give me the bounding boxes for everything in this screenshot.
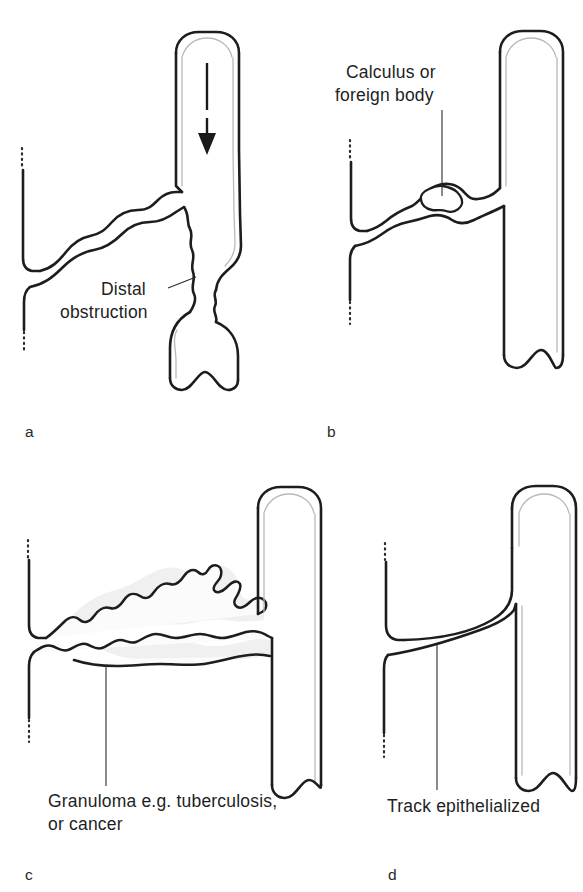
panel-c-left-wall-lower: [29, 652, 34, 718]
panel-c: Granuloma e.g. tuberculosis, or cancer c: [25, 487, 321, 883]
panel-a-tube-right-wall: [176, 32, 241, 290]
panel-a-caption-line-2: obstruction: [60, 302, 148, 322]
panel-c-caption-line-2: or cancer: [48, 814, 123, 834]
panel-a-track-lower-wall: [30, 207, 184, 287]
panel-a-stricture-right: [214, 290, 216, 322]
panel-c-caption-line-1: Granuloma e.g. tuberculosis,: [48, 791, 277, 811]
panel-b-left-wall-lower: [350, 246, 355, 300]
panel-a-flow-arrow-icon: [198, 63, 216, 155]
panel-a-left-wall-upper: [23, 170, 40, 271]
panel-d-track-lower-wall: [388, 604, 516, 655]
panel-d: Track epithelialized d: [384, 486, 576, 883]
panel-a-pouch-right-wall: [216, 322, 238, 380]
panel-b-tube-bottom-cutaway: [504, 350, 563, 368]
panel-d-track-upper-wall: [404, 548, 512, 640]
panel-a-tube-highlight-right: [225, 58, 235, 266]
panel-d-caption-line-1: Track epithelialized: [387, 796, 540, 816]
panel-c-left-wall-upper: [29, 560, 46, 638]
panel-letter-c: c: [25, 866, 33, 883]
panel-a-pouch-highlight: [174, 330, 177, 378]
panel-d-left-wall-lower: [384, 655, 388, 733]
figure-container: Distal obstruction a: [0, 0, 583, 892]
panel-c-tube-dome-highlight: [264, 494, 314, 513]
panel-b-left-wall-upper: [351, 162, 367, 231]
panel-a-tube-dome-highlight: [182, 38, 232, 57]
panel-c-tube-bottom-cutaway: [272, 780, 321, 798]
panel-a-stricture-left: [184, 207, 195, 312]
panel-a-track-upper-wall: [40, 192, 182, 271]
panel-b: Calculus or foreign body b: [327, 31, 563, 440]
panel-a-left-wall-lower: [24, 287, 30, 330]
panel-letter-a: a: [25, 423, 34, 440]
panel-letter-b: b: [327, 423, 336, 440]
panel-a: Distal obstruction a: [22, 32, 241, 440]
panel-b-caption-line-1: Calculus or: [346, 62, 436, 82]
panel-a-pouch-bottom-cutaway: [170, 372, 238, 390]
panel-a-caption-line-1: Distal: [101, 279, 146, 299]
panel-b-tube-right-wall: [500, 31, 563, 355]
panel-b-tube-dome-highlight: [506, 38, 556, 57]
panel-d-left-wall-upper: [386, 562, 404, 640]
panel-d-tube-dome-highlight: [519, 494, 569, 513]
fistula-diagram: Distal obstruction a: [0, 0, 583, 892]
panel-a-tube-left-wall-upper: [176, 53, 182, 192]
panel-d-tube-bottom-cutaway: [516, 773, 576, 791]
panel-letter-d: d: [388, 866, 397, 883]
panel-b-caption-line-2: foreign body: [335, 85, 434, 105]
panel-a-pouch-left-wall: [170, 312, 190, 378]
